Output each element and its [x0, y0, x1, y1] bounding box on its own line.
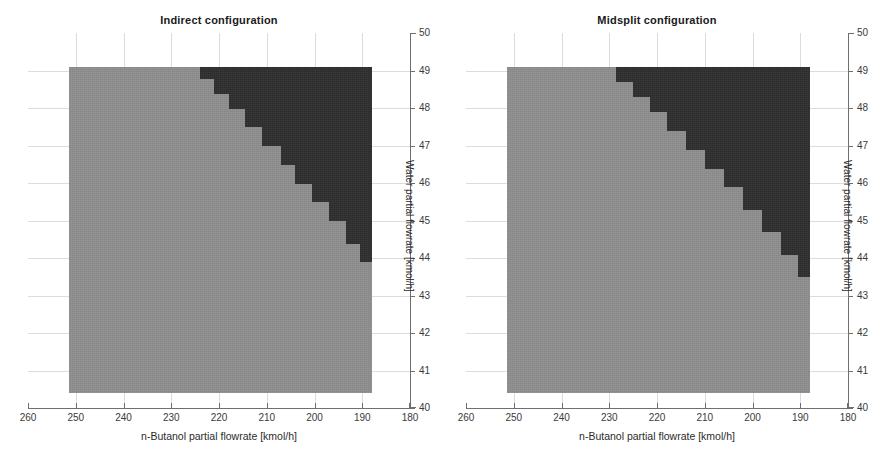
y-axis-tick-label: 43: [857, 290, 868, 302]
y-axis-tick: [410, 146, 415, 147]
y-axis-tick: [848, 146, 853, 147]
y-axis-tick-label: 46: [857, 177, 868, 189]
x-axis: [466, 408, 848, 409]
x-axis-tick: [609, 403, 610, 408]
x-axis-tick: [753, 403, 754, 408]
y-axis-title: Water partial flowrate [kmol/h]: [842, 160, 853, 292]
x-axis: [28, 408, 410, 409]
region-dark-step: [229, 93, 372, 109]
heatmap-patch: [69, 67, 372, 393]
y-axis-title: Water partial flowrate [kmol/h]: [404, 160, 415, 292]
x-axis-tick: [219, 403, 220, 408]
chart-panel-midsplit: Midsplit configuration n-Butanol partial…: [438, 0, 876, 463]
x-axis-tick: [362, 403, 363, 408]
x-axis-tick: [705, 403, 706, 408]
x-axis-tick: [267, 403, 268, 408]
x-axis-tick: [514, 403, 515, 408]
chart-panel-indirect: Indirect configuration n-Butanol partial…: [0, 0, 438, 463]
y-axis-tick-label: 47: [857, 140, 868, 152]
y-axis-tick: [848, 108, 853, 109]
region-dark-step: [214, 78, 372, 94]
y-axis-tick-label: 45: [857, 215, 868, 227]
x-axis-tick-label: 260: [446, 412, 486, 423]
y-axis-tick: [410, 33, 415, 34]
region-dark-step: [616, 67, 809, 83]
y-axis-tick: [848, 408, 853, 409]
y-axis-tick-label: 42: [857, 327, 868, 339]
y-axis-tick: [410, 71, 415, 72]
x-axis-tick: [657, 403, 658, 408]
x-axis-tick-label: 190: [780, 412, 820, 423]
region-dark-step: [346, 221, 372, 244]
y-axis-tick: [410, 371, 415, 372]
y-axis-tick-label: 44: [857, 252, 868, 264]
region-dark-step: [295, 164, 371, 183]
y-axis-tick: [410, 296, 415, 297]
y-axis-tick-label: 45: [419, 215, 430, 227]
x-axis-tick-label: 200: [295, 412, 335, 423]
region-dark-step: [667, 112, 810, 131]
y-axis-tick: [848, 71, 853, 72]
x-axis-tick-label: 230: [151, 412, 191, 423]
x-axis-tick-label: 220: [637, 412, 677, 423]
region-dark-step: [686, 131, 810, 150]
region-dark-step: [705, 149, 810, 168]
x-axis-title: n-Butanol partial flowrate [kmol/h]: [0, 430, 438, 442]
chart-title: Midsplit configuration: [438, 14, 876, 26]
x-axis-tick-label: 230: [589, 412, 629, 423]
y-axis-tick-label: 48: [419, 102, 430, 114]
y-axis-tick-label: 49: [419, 65, 430, 77]
y-axis-tick-label: 50: [857, 27, 868, 39]
y-axis-tick-label: 42: [419, 327, 430, 339]
region-dark-step: [312, 183, 372, 202]
x-axis-tick-label: 210: [247, 412, 287, 423]
y-axis-tick-label: 50: [419, 27, 430, 39]
y-axis-tick-label: 44: [419, 252, 430, 264]
y-axis-tick-label: 43: [419, 290, 430, 302]
y-axis-tick-label: 49: [857, 65, 868, 77]
x-axis-tick-label: 240: [542, 412, 582, 423]
region-dark-step: [633, 82, 810, 98]
y-axis-tick: [848, 371, 853, 372]
heatmap-patch: [507, 67, 810, 393]
region-dark-step: [329, 202, 372, 221]
y-axis-tick-label: 40: [857, 402, 868, 414]
y-axis-tick-label: 47: [419, 140, 430, 152]
x-axis-tick-label: 260: [8, 412, 48, 423]
figure-canvas: Indirect configuration n-Butanol partial…: [0, 0, 876, 463]
region-dark-step: [200, 67, 372, 79]
x-axis-tick: [171, 403, 172, 408]
region-dark-step: [798, 254, 810, 277]
y-axis-tick: [848, 33, 853, 34]
region-dark-step: [781, 232, 810, 255]
region-dark-step: [762, 209, 810, 232]
x-axis-tick: [562, 403, 563, 408]
region-dark-step: [650, 97, 810, 113]
y-axis-tick-label: 48: [857, 102, 868, 114]
x-axis-tick-label: 200: [733, 412, 773, 423]
x-axis-tick-label: 220: [199, 412, 239, 423]
x-axis-tick-label: 250: [56, 412, 96, 423]
x-axis-tick-label: 250: [494, 412, 534, 423]
x-axis-tick: [800, 403, 801, 408]
x-axis-tick: [28, 403, 29, 408]
x-axis-tick: [466, 403, 467, 408]
region-dark-step: [262, 127, 372, 146]
y-axis-tick: [848, 296, 853, 297]
y-axis-tick: [410, 333, 415, 334]
y-axis-tick-label: 41: [857, 365, 868, 377]
x-axis-title: n-Butanol partial flowrate [kmol/h]: [438, 430, 876, 442]
region-dark-step: [281, 146, 372, 165]
region-dark-step: [360, 243, 372, 262]
chart-title: Indirect configuration: [0, 14, 438, 26]
y-axis-tick: [410, 408, 415, 409]
x-axis-tick: [315, 403, 316, 408]
x-axis-tick: [124, 403, 125, 408]
y-axis-tick-label: 40: [419, 402, 430, 414]
y-axis-tick: [410, 108, 415, 109]
x-axis-tick-label: 210: [685, 412, 725, 423]
y-axis-tick-label: 46: [419, 177, 430, 189]
region-dark-step: [724, 168, 810, 187]
plot-area: [28, 33, 410, 408]
x-axis-tick: [76, 403, 77, 408]
